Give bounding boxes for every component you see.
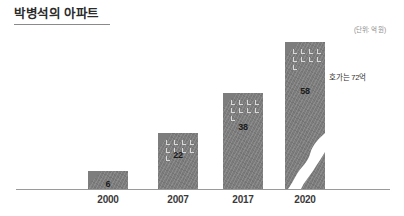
bar-texture bbox=[223, 93, 263, 189]
window-marks bbox=[231, 100, 259, 121]
window-mark bbox=[293, 49, 297, 54]
axis-baseline bbox=[16, 189, 390, 190]
bar-2020: 58 bbox=[285, 42, 325, 189]
window-mark bbox=[231, 100, 235, 105]
window-mark bbox=[247, 108, 251, 113]
window-marks bbox=[293, 49, 321, 70]
bar-body: 6 bbox=[88, 171, 128, 189]
chart-plot-area: 6223858 2000200720172020 bbox=[0, 0, 404, 216]
window-mark bbox=[317, 57, 321, 62]
window-mark bbox=[309, 49, 313, 54]
window-mark bbox=[166, 140, 170, 145]
bar-value-2000: 6 bbox=[88, 179, 128, 189]
bar-2017: 38 bbox=[223, 93, 263, 189]
window-mark bbox=[174, 140, 178, 145]
bar-2007: 22 bbox=[158, 133, 198, 189]
window-mark bbox=[182, 140, 186, 145]
x-label-2017: 2017 bbox=[223, 194, 263, 205]
window-mark bbox=[301, 49, 305, 54]
window-mark bbox=[301, 65, 305, 70]
window-mark bbox=[239, 100, 243, 105]
window-mark bbox=[247, 116, 251, 121]
window-mark bbox=[247, 100, 251, 105]
window-mark bbox=[231, 108, 235, 113]
x-label-2000: 2000 bbox=[88, 194, 128, 205]
window-mark bbox=[309, 65, 313, 70]
bar-body: 22 bbox=[158, 133, 198, 189]
crack-graphic bbox=[285, 133, 325, 189]
bar-value-2007: 22 bbox=[158, 150, 198, 160]
bar-texture bbox=[285, 42, 325, 189]
window-mark bbox=[293, 65, 297, 70]
window-mark bbox=[255, 100, 259, 105]
x-label-2020: 2020 bbox=[285, 194, 325, 205]
window-mark bbox=[190, 140, 194, 145]
infographic-chart: 박병석의 아파트 (단위: 억 원) 6223858 2000200720172… bbox=[0, 0, 404, 216]
window-mark bbox=[317, 49, 321, 54]
window-mark bbox=[239, 108, 243, 113]
bar-shape bbox=[285, 42, 325, 189]
bar-2000: 6 bbox=[88, 171, 128, 189]
window-mark bbox=[301, 57, 305, 62]
bar-value-2020: 58 bbox=[285, 86, 325, 96]
window-mark bbox=[255, 108, 259, 113]
bar-body: 38 bbox=[223, 93, 263, 189]
window-mark bbox=[317, 65, 321, 70]
x-label-2007: 2007 bbox=[158, 194, 198, 205]
bar-texture bbox=[158, 133, 198, 189]
bar-shape bbox=[158, 133, 198, 189]
annotation-label: 호가는 72억 bbox=[329, 71, 366, 82]
bar-body: 58 bbox=[285, 42, 325, 189]
window-mark bbox=[239, 116, 243, 121]
bar-value-2017: 38 bbox=[223, 122, 263, 132]
window-mark bbox=[309, 57, 313, 62]
window-mark bbox=[255, 116, 259, 121]
window-mark bbox=[231, 116, 235, 121]
window-mark bbox=[293, 57, 297, 62]
bar-shape bbox=[223, 93, 263, 189]
